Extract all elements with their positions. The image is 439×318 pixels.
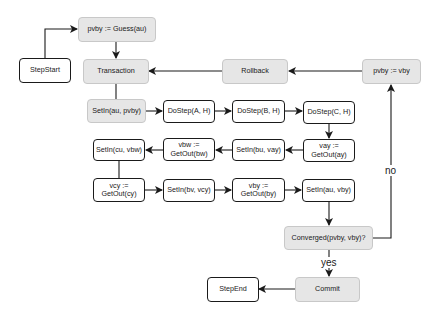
- node-dostep-c: DoStep(C, H): [303, 101, 355, 124]
- edge-stepstart-guess: [45, 29, 77, 58]
- node-guess: pvby := Guess(au): [78, 17, 156, 42]
- node-setin-au-vby: SetIn(au, vby): [302, 179, 355, 202]
- edge-label-no: no: [384, 165, 397, 176]
- node-rollback: Rollback: [222, 59, 288, 84]
- node-vcy-getout: vcy := GetOut(cy): [93, 178, 145, 202]
- node-vby-getout: vby := GetOut(by): [232, 178, 285, 202]
- node-setin-bv-vcy: SetIn(bv, vcy): [163, 179, 215, 202]
- flowchart-edges: [0, 0, 439, 318]
- node-pvby-vby: pvby := vby: [362, 59, 421, 84]
- node-setin-cu-vbw: SetIn(cu, vbw): [93, 139, 145, 161]
- node-dostep-b: DoStep(B, H): [232, 100, 285, 123]
- node-commit: Commit: [295, 277, 360, 302]
- node-setin-bu-vay: SetIn(bu, vay): [232, 139, 285, 161]
- node-step-end: StepEnd: [207, 277, 259, 302]
- edge-label-yes: yes: [320, 257, 338, 268]
- edge-converged-pvbyvby: [373, 85, 391, 238]
- node-vbw-getout: vbw := GetOut(bw): [163, 138, 215, 161]
- node-converged: Converged(pvby, vby)?: [284, 226, 373, 250]
- node-step-start: StepStart: [19, 58, 71, 83]
- node-vay-getout: vay := GetOut(ay): [303, 139, 355, 162]
- node-transaction: Transaction: [83, 59, 149, 84]
- node-setin-au-pvby: SetIn(au, pvby): [87, 99, 146, 123]
- node-dostep-a: DoStep(A, H): [163, 100, 215, 123]
